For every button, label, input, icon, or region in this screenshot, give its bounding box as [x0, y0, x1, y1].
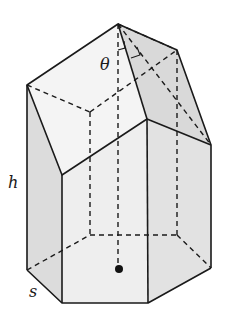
- theta-label: θ: [100, 55, 110, 74]
- base-center-point: [115, 265, 123, 273]
- honeycomb-prism-diagram: θ h s: [0, 0, 228, 325]
- right-side-face: [147, 119, 211, 303]
- side-label: s: [29, 282, 37, 301]
- height-label: h: [8, 173, 18, 192]
